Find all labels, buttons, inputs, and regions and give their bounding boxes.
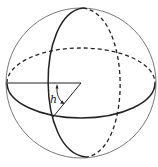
equator-front-solid (7, 83, 155, 118)
equator-back-dashed (7, 48, 155, 83)
angle-arc (57, 87, 63, 103)
angle-label: h (50, 93, 57, 106)
arc-arrowhead-top (56, 84, 59, 89)
sphere-diagram: h (0, 0, 158, 167)
meridian-back-dashed (83, 8, 120, 157)
